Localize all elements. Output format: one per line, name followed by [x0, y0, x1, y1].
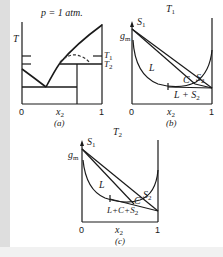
panel-c-s2-label: S2: [143, 190, 152, 202]
panel-c-s1-label: S1: [87, 137, 96, 149]
panel-b-gibbs-diagram-t1: [130, 18, 212, 104]
panel-b-l-label: L: [149, 63, 155, 73]
panel-c-l-label: L: [99, 180, 105, 190]
panel-c-s1-c-line: [82, 149, 134, 204]
panel-a-liquidus-left: [22, 69, 46, 87]
panel-a-title-text: p = 1 atm.: [41, 7, 83, 18]
panel-b-y-label: gm: [120, 31, 130, 43]
panel-b-y-arrow-icon: [130, 21, 134, 27]
s1-subscript: 1: [142, 21, 146, 29]
panel-a-temperature-composition-diagram: [22, 22, 102, 104]
panel-b-caption: (b): [166, 119, 177, 128]
s1-subscript: 1: [92, 141, 96, 149]
panel-b-x-tick-0: 0: [129, 108, 134, 117]
panel-a-y-label: T: [13, 34, 19, 44]
panel-b-c-label: C: [183, 75, 190, 85]
panel-b-title: T1: [166, 4, 175, 16]
panel-a-caption: (a): [54, 119, 65, 128]
t2-subscript: 2: [109, 63, 113, 71]
phase-diagram-figure: [0, 0, 223, 257]
panel-b-s2-label: S2: [196, 73, 205, 85]
l-s2-text: L + S: [174, 89, 196, 100]
panel-a-title: p = 1 atm.: [41, 8, 83, 18]
panel-a-x-tick-1: 1: [99, 108, 104, 117]
panel-c-title: T2: [113, 127, 122, 139]
panel-b-tangent-l-s2: [168, 87, 212, 88]
panel-a-x-tick-0: 0: [19, 108, 24, 117]
title-subscript: 1: [172, 8, 176, 16]
panel-c-caption: (c): [115, 237, 125, 246]
panel-b-x-tick-1: 1: [209, 108, 214, 117]
panel-c-y-label: gm: [68, 150, 78, 162]
panel-a-t2-label: T2: [104, 60, 113, 71]
s2-subscript: 2: [148, 194, 152, 202]
panel-b-s1-label: S1: [137, 17, 146, 29]
panel-c-x-tick-1: 1: [155, 226, 160, 235]
panel-a-metastable-dashed: [60, 55, 90, 63]
l-c-s2-text: L+C+S: [107, 205, 135, 215]
g-subscript: m: [73, 154, 78, 162]
panel-c-x-tick-0: 0: [79, 226, 84, 235]
l-s2-subscript: 2: [196, 94, 200, 102]
panel-b-l-s2-label: L + S2: [174, 90, 200, 102]
g-subscript: m: [125, 35, 130, 43]
title-subscript: 2: [119, 131, 123, 139]
panel-c-l-c-s2-label: L+C+S2: [107, 206, 138, 217]
l-c-s2-subscript: 2: [135, 209, 139, 217]
panel-c-c-label: C: [134, 196, 141, 206]
s2-subscript: 2: [201, 77, 205, 85]
panel-c-y-arrow-icon: [80, 140, 84, 146]
